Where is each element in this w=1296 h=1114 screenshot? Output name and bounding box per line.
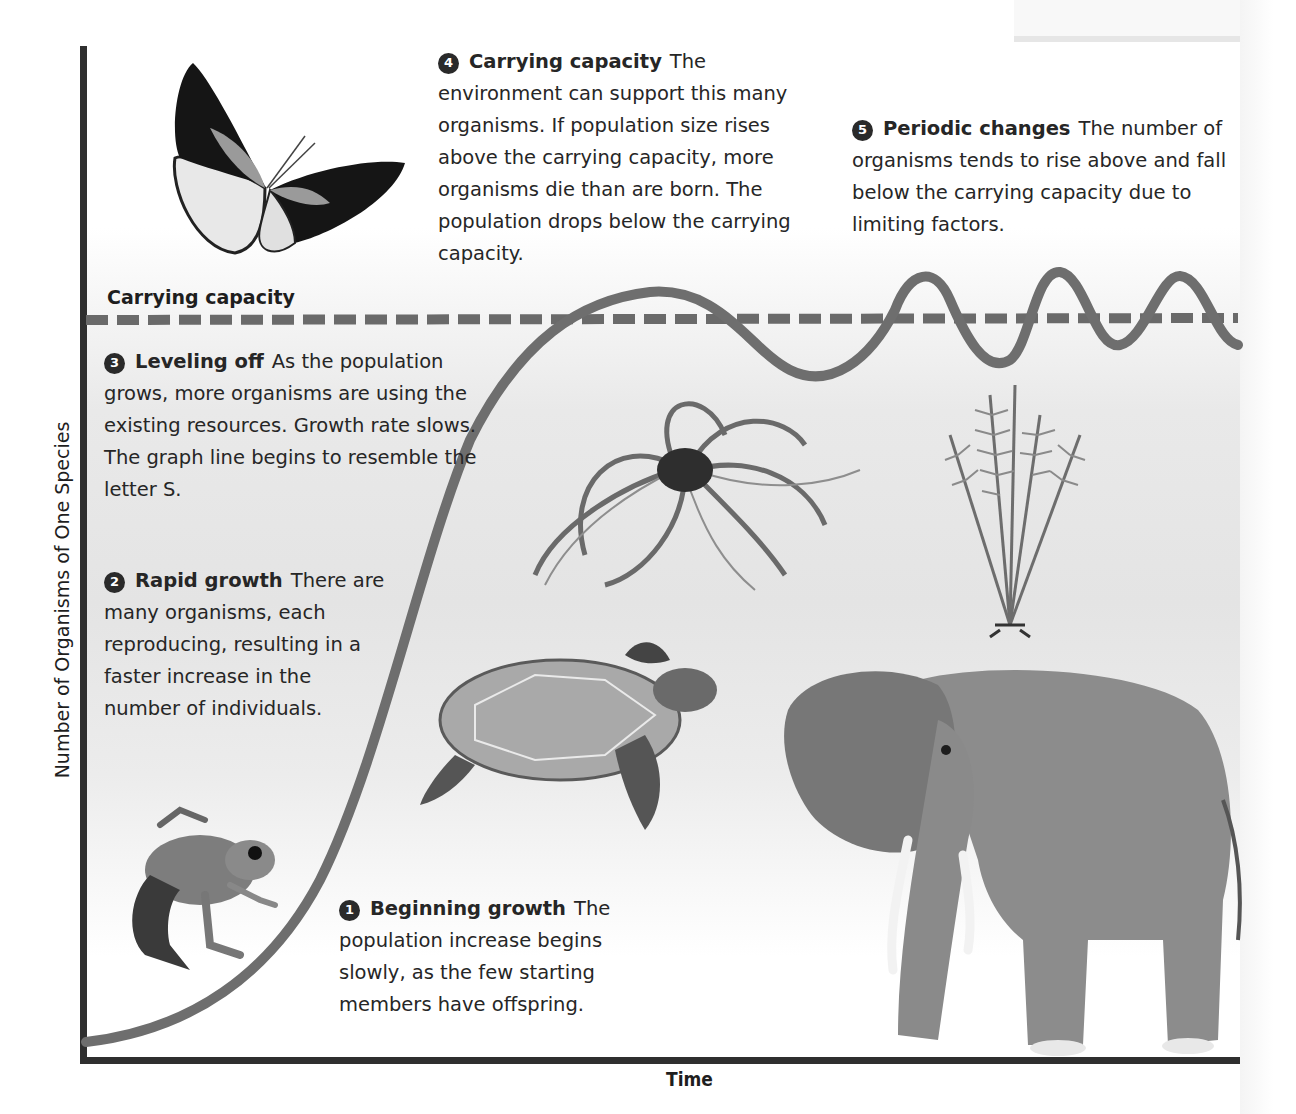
annotation-carrying-capacity: 4Carrying capacityThe environment can su… <box>438 46 818 270</box>
step-number-badge: 5 <box>852 120 873 141</box>
annotation-rapid-growth: 2Rapid growthThere are many organisms, e… <box>104 565 389 725</box>
step-number-badge: 4 <box>438 53 459 74</box>
annotation-beginning-growth: 1Beginning growthThe population increase… <box>339 893 634 1021</box>
butterfly-icon <box>165 58 410 268</box>
frog-icon <box>110 805 280 985</box>
annotation-periodic-changes: 5Periodic changesThe number of organisms… <box>852 113 1237 241</box>
y-axis-label: Number of Organisms of One Species <box>51 422 73 779</box>
annotation-title: Rapid growth <box>135 569 283 592</box>
fern-icon <box>930 375 1095 640</box>
y-axis <box>80 46 87 1064</box>
x-axis-label: Time <box>666 1068 713 1090</box>
annotation-title: Carrying capacity <box>469 50 662 73</box>
annotation-title: Leveling off <box>135 350 264 373</box>
carrying-capacity-label: Carrying capacity <box>107 286 295 308</box>
annotation-leveling-off: 3Leveling offAs the population grows, mo… <box>104 346 479 506</box>
annotation-title: Periodic changes <box>883 117 1070 140</box>
sea-anemone-icon <box>525 375 865 600</box>
x-axis <box>80 1057 1240 1064</box>
annotation-title: Beginning growth <box>370 897 566 920</box>
elephant-icon <box>768 640 1258 1060</box>
step-number-badge: 3 <box>104 353 125 374</box>
annotation-text: The environment can support this many or… <box>438 50 791 265</box>
sea-turtle-icon <box>415 635 720 835</box>
step-number-badge: 2 <box>104 572 125 593</box>
step-number-badge: 1 <box>339 900 360 921</box>
